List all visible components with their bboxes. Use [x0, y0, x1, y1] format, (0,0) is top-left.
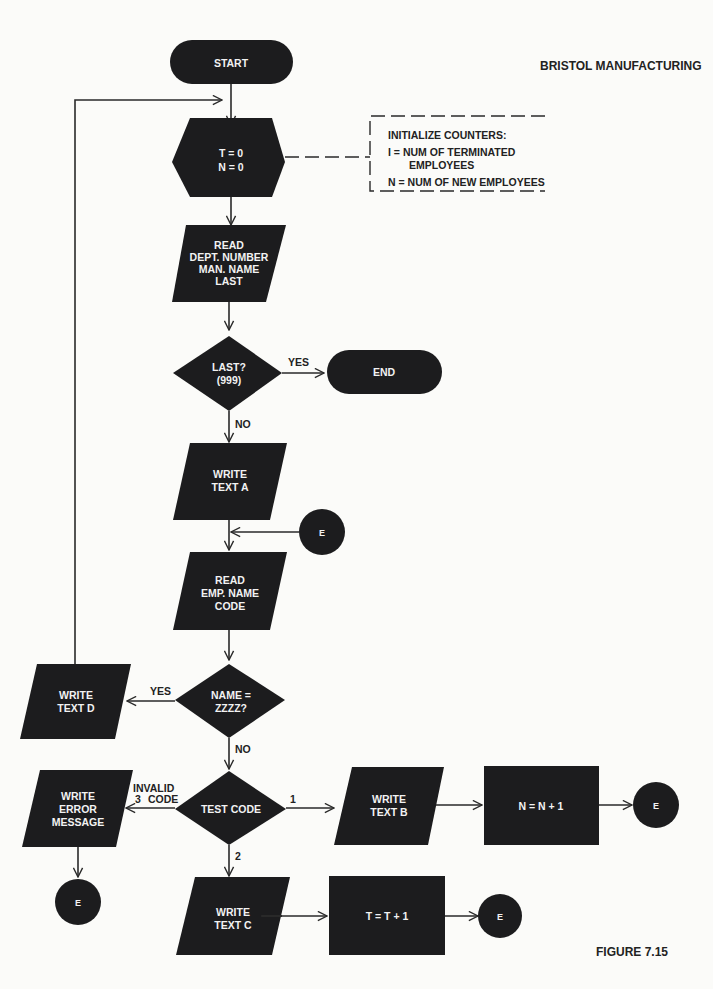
test-code-decision: TEST CODE: [175, 771, 286, 845]
svg-text:MESSAGE: MESSAGE: [52, 816, 105, 828]
last-decision: LAST? (999): [173, 336, 282, 411]
svg-text:WRITE: WRITE: [372, 793, 406, 805]
svg-text:N = NUM OF NEW EMPLOYEES: N = NUM OF NEW EMPLOYEES: [388, 176, 545, 188]
svg-text:LAST?: LAST?: [212, 361, 246, 373]
svg-text:EMP. NAME: EMP. NAME: [201, 587, 259, 599]
svg-text:MAN. NAME: MAN. NAME: [199, 263, 260, 275]
svg-text:T = 0: T = 0: [219, 147, 243, 159]
svg-text:WRITE: WRITE: [61, 790, 95, 802]
svg-text:E: E: [497, 912, 503, 922]
label-branch-3: 3: [135, 793, 141, 805]
svg-text:START: START: [214, 57, 249, 69]
start-terminal: START: [170, 40, 293, 84]
label-yes-last: YES: [288, 356, 309, 368]
svg-text:TEXT D: TEXT D: [57, 702, 95, 714]
write-text-d-io: WRITE TEXT D: [20, 664, 131, 739]
svg-text:DEPT. NUMBER: DEPT. NUMBER: [190, 251, 269, 263]
read-emp-io: READ EMP. NAME CODE: [173, 552, 287, 630]
svg-text:N = 0: N = 0: [218, 161, 244, 173]
end-terminal: END: [327, 350, 442, 394]
svg-text:WRITE: WRITE: [59, 689, 93, 701]
svg-text:TEXT B: TEXT B: [370, 806, 408, 818]
figure-label: FIGURE 7.15: [596, 945, 668, 959]
svg-text:CODE: CODE: [215, 600, 245, 612]
label-code: CODE: [148, 793, 178, 805]
label-yes-name: YES: [150, 685, 171, 697]
svg-text:TEST CODE: TEST CODE: [201, 803, 261, 815]
svg-text:E: E: [75, 898, 81, 908]
label-no-last: NO: [235, 418, 251, 430]
svg-text:TEXT C: TEXT C: [214, 919, 252, 931]
header-title: BRISTOL MANUFACTURING: [540, 59, 702, 73]
increment-n-process: N = N + 1: [484, 766, 599, 845]
svg-text:N = N + 1: N = N + 1: [519, 800, 564, 812]
svg-text:T = T + 1: T = T + 1: [366, 910, 409, 922]
write-error-io: WRITE ERROR MESSAGE: [22, 770, 133, 847]
svg-text:NAME =: NAME =: [211, 689, 251, 701]
label-branch-1: 1: [290, 793, 296, 805]
name-decision: NAME = ZZZZ?: [175, 664, 285, 738]
svg-text:READ: READ: [215, 574, 245, 586]
connector-e-error: E: [55, 879, 101, 925]
svg-text:INITIALIZE COUNTERS:: INITIALIZE COUNTERS:: [388, 129, 506, 141]
label-branch-2: 2: [235, 850, 241, 862]
increment-t-process: T = T + 1: [329, 876, 445, 955]
svg-text:(999): (999): [217, 374, 242, 386]
write-text-b-io: WRITE TEXT B: [334, 767, 444, 845]
svg-text:ZZZZ?: ZZZZ?: [215, 702, 247, 714]
init-hexagon: T = 0 N = 0: [172, 118, 285, 197]
svg-text:I = NUM OF TERMINATED: I = NUM OF TERMINATED: [388, 146, 516, 158]
svg-text:WRITE: WRITE: [213, 468, 247, 480]
svg-text:E: E: [653, 801, 659, 811]
svg-text:E: E: [319, 528, 325, 538]
connector-e-top: E: [299, 509, 345, 555]
svg-text:EMPLOYEES: EMPLOYEES: [409, 159, 474, 171]
svg-text:ERROR: ERROR: [59, 803, 97, 815]
svg-text:TEXT A: TEXT A: [212, 481, 249, 493]
label-no-name: NO: [235, 743, 251, 755]
svg-text:LAST: LAST: [215, 275, 243, 287]
annotation: INITIALIZE COUNTERS: I = NUM OF TERMINAT…: [388, 129, 545, 188]
read-dept-io: READ DEPT. NUMBER MAN. NAME LAST: [172, 225, 286, 302]
connector-e-right: E: [633, 782, 679, 828]
svg-text:END: END: [373, 366, 396, 378]
svg-text:WRITE: WRITE: [216, 906, 250, 918]
write-text-a-io: WRITE TEXT A: [173, 443, 287, 520]
connector-e-bottom: E: [478, 894, 522, 938]
svg-text:READ: READ: [214, 239, 244, 251]
flowchart: BRISTOL MANUFACTURING START T = 0 N = 0 …: [0, 0, 713, 989]
